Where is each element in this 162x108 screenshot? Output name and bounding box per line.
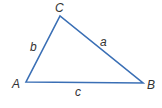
triangle-diagram: C A B b a c	[0, 0, 162, 108]
side-label-b: b	[30, 40, 37, 54]
side-label-a: a	[100, 35, 107, 49]
vertex-label-b: B	[147, 78, 155, 92]
vertex-label-a: A	[11, 77, 20, 91]
side-label-c: c	[75, 85, 81, 99]
triangle-abc	[26, 16, 143, 83]
vertex-label-c: C	[55, 1, 64, 15]
